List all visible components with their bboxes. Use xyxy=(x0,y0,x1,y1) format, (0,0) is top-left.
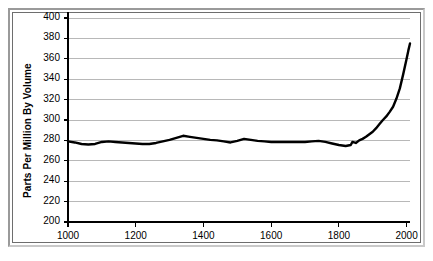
x-tick-label: 2000 xyxy=(382,230,432,241)
tick-marks xyxy=(64,18,407,227)
x-tick-label: 1600 xyxy=(246,230,296,241)
axis-lines xyxy=(68,12,410,222)
y-tick-label: 340 xyxy=(24,72,60,83)
x-tick-label: 1800 xyxy=(314,230,364,241)
y-tick-label: 360 xyxy=(24,52,60,63)
chart-plot-area: Parts Per Million By Volume 200220240260… xyxy=(0,0,433,261)
y-tick-label: 200 xyxy=(24,215,60,226)
y-tick-label: 220 xyxy=(24,195,60,206)
y-tick-label: 300 xyxy=(24,113,60,124)
y-tick-label: 400 xyxy=(24,11,60,22)
y-tick-label: 280 xyxy=(24,133,60,144)
x-tick-label: 1400 xyxy=(178,230,228,241)
y-tick-label: 380 xyxy=(24,31,60,42)
gridlines xyxy=(68,18,410,222)
x-tick-label: 1200 xyxy=(111,230,161,241)
y-tick-label: 240 xyxy=(24,174,60,185)
y-tick-label: 260 xyxy=(24,154,60,165)
chart-svg xyxy=(0,0,433,261)
y-tick-label: 320 xyxy=(24,93,60,104)
x-tick-label: 1000 xyxy=(43,230,93,241)
